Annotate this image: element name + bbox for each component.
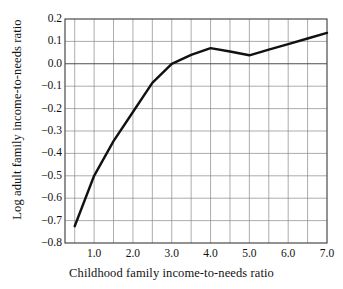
data-series-line: [75, 33, 327, 226]
x-axis-title: Childhood family income-to-needs ratio: [0, 266, 343, 281]
x-axis-tick-labels: 1.02.03.04.05.06.07.0: [0, 248, 343, 264]
plot-area: [0, 0, 343, 289]
x-tick-label: 6.0: [266, 248, 310, 260]
chart-figure: Log adult family income-to-needs ratio 0…: [0, 0, 343, 289]
y-gridlines: [65, 41, 327, 220]
x-tick-label: 5.0: [227, 248, 271, 260]
x-tick-label: 1.0: [72, 248, 116, 260]
x-tick-label: 2.0: [111, 248, 155, 260]
x-tick-label: 4.0: [189, 248, 233, 260]
x-tick-label: 7.0: [305, 248, 343, 260]
x-tick-label: 3.0: [150, 248, 194, 260]
